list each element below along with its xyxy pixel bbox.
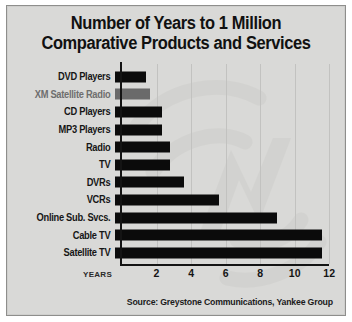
bar-track [115,244,345,262]
bar-track [115,226,345,244]
bar [115,159,170,170]
bar-category-label: DVRs [15,177,115,188]
bar-row: MP3 Players [7,121,345,139]
bar-track [115,103,345,121]
bar-row: Satellite TV [7,244,345,262]
bar-category-label: Satellite TV [15,247,115,258]
bar-category-label: Online Sub. Svcs. [15,212,115,223]
bar-track [115,68,345,86]
x-axis-line [120,264,329,266]
bar-row: Radio [7,138,345,156]
source-note: Source: Greystone Communications, Yankee… [127,297,333,308]
chart-figure: Number of Years to 1 Million Comparative… [0,0,352,322]
bar-row: CD Players [7,103,345,121]
bar-track [115,191,345,209]
x-tick-label: 2 [154,267,160,280]
bar-row: DVD Players [7,68,345,86]
bar-rows: DVD PlayersXM Satellite RadioCD PlayersM… [7,68,345,262]
bar-track [115,86,345,104]
bar-row: DVRs [7,174,345,192]
bar-track [115,209,345,227]
x-axis-title: YEARS [83,268,112,281]
page-title: Number of Years to 1 Million Comparative… [7,6,345,53]
bar-track [115,156,345,174]
bar-row: Cable TV [7,226,345,244]
bar-row: VCRs [7,191,345,209]
bar-category-label: Cable TV [15,230,115,241]
x-tick-label: 6 [223,267,229,280]
bar [115,177,184,188]
x-axis-tick-labels: YEARS 24681012 [7,267,345,281]
bar-category-label: TV [15,159,115,170]
bar [115,212,277,223]
x-tick-label: 12 [323,267,335,280]
bar [115,142,170,153]
bar-track [115,174,345,192]
plot-area: DVD PlayersXM Satellite RadioCD PlayersM… [7,62,345,315]
title-line-2: Comparative Products and Services [25,33,328,53]
bar [115,247,322,258]
bar-row: XM Satellite Radio [7,86,345,104]
bar-category-label: Radio [15,142,115,153]
bar-row: TV [7,156,345,174]
bar-category-label: XM Satellite Radio [15,89,115,100]
bar [115,230,322,241]
bar-category-label: DVD Players [15,71,115,82]
bar-track [115,121,345,139]
x-tick-label: 8 [257,267,263,280]
bar-row: Online Sub. Svcs. [7,209,345,227]
bar [115,194,219,205]
bar-track [115,138,345,156]
x-tick-label: 4 [188,267,194,280]
x-tick-label: 10 [289,267,301,280]
bar-category-label: CD Players [15,106,115,117]
y-axis-line [120,62,122,266]
title-line-1: Number of Years to 1 Million [25,13,328,33]
bar-category-label: VCRs [15,194,115,205]
bar-category-label: MP3 Players [15,124,115,135]
chart-frame: Number of Years to 1 Million Comparative… [6,5,346,316]
